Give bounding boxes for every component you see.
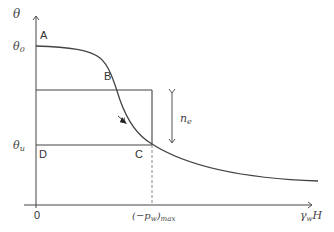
point-c-label: C: [135, 148, 143, 160]
x-axis-label: γwH: [300, 209, 323, 223]
retention-curve: [36, 46, 318, 181]
y-axis-label: θ: [13, 7, 21, 21]
thetau-label: θu: [13, 139, 25, 153]
origin-label: 0: [34, 209, 40, 221]
point-b-label: B: [104, 70, 111, 82]
x-tick-label: (−pw)max: [132, 210, 175, 223]
ne-label: ne: [180, 112, 192, 126]
diagram-canvas: θ θ0 θu A B C D ne 0 (−pw)max γwH: [0, 0, 334, 232]
theta0-label: θ0: [13, 40, 25, 54]
point-d-label: D: [39, 148, 47, 160]
point-a-label: A: [40, 29, 48, 41]
